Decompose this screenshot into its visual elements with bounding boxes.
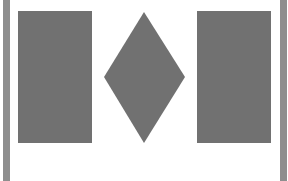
right-side-bar <box>280 0 287 181</box>
right-rectangle <box>197 11 271 143</box>
